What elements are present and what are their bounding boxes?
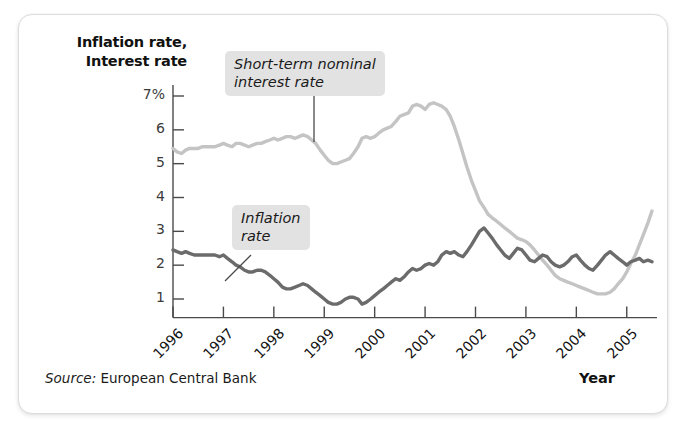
- y-tick-label: 5: [79, 154, 165, 170]
- source-text: European Central Bank: [101, 370, 257, 386]
- annotation-inflation-line1: Inflation: [241, 209, 301, 227]
- annotation-interest-line2: interest rate: [234, 73, 376, 91]
- annotation-inflation-rate: Inflation rate: [232, 205, 310, 250]
- annotation-interest-line1: Short-term nominal: [234, 55, 376, 73]
- annotation-inflation-line2: rate: [241, 227, 301, 245]
- chart-card: Inflation rate, Interest rate 7%654321 1…: [18, 14, 668, 414]
- chart-screenshot: Inflation rate, Interest rate 7%654321 1…: [0, 0, 688, 441]
- x-axis-title: Year: [579, 370, 615, 386]
- source-label: Source:: [45, 370, 96, 386]
- y-tick-label: 3: [79, 221, 165, 237]
- source-note: Source: European Central Bank: [45, 370, 256, 386]
- y-tick-label: 6: [79, 120, 165, 136]
- y-tick-label: 4: [79, 188, 165, 204]
- y-tick-label: 2: [79, 255, 165, 271]
- y-tick-label: 1: [79, 289, 165, 305]
- annotation-interest-rate: Short-term nominal interest rate: [225, 51, 385, 96]
- y-tick-label: 7%: [79, 86, 165, 102]
- series-line-interest-rate: [173, 103, 652, 294]
